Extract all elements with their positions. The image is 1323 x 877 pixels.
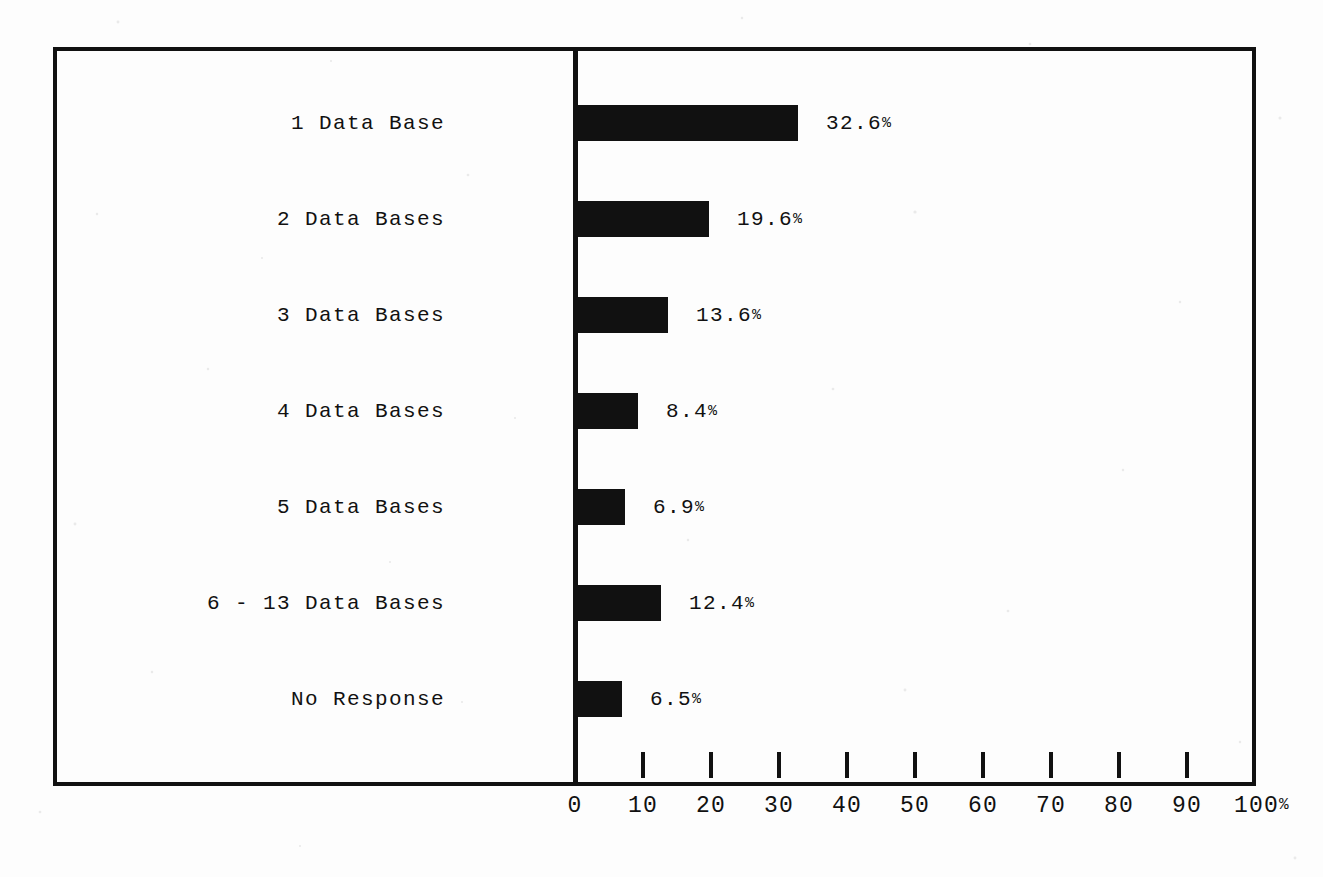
x-axis-tick-label: 70 [1036,795,1066,818]
x-axis-tick-label: 50 [900,795,930,818]
x-axis-tick-label-max: 100% [1234,795,1290,818]
x-axis-tick [1049,752,1053,778]
x-axis-tick-label: 30 [764,795,794,818]
x-axis-tick [981,752,985,778]
x-axis-tick [641,752,645,778]
x-axis-tick-label: 90 [1172,795,1202,818]
x-axis-tick [913,752,917,778]
x-axis-tick-label: 80 [1104,795,1134,818]
x-axis-tick-label: 20 [696,795,726,818]
x-axis-tick-label: 40 [832,795,862,818]
x-axis-tick-label: 60 [968,795,998,818]
x-axis: 0 10 20 30 40 50 60 70 80 90 100% [0,0,1323,877]
x-axis-tick [709,752,713,778]
x-axis-max-number: 100 [1234,793,1279,819]
scanned-page: 1 Data Base 32.6% 2 Data Bases 19.6% 3 D… [0,0,1323,877]
percent-sign: % [1279,796,1290,814]
x-axis-tick-label: 10 [628,795,658,818]
x-axis-tick [1185,752,1189,778]
x-axis-tick [845,752,849,778]
x-axis-tick-label: 0 [567,795,582,818]
x-axis-tick [777,752,781,778]
x-axis-tick [1117,752,1121,778]
